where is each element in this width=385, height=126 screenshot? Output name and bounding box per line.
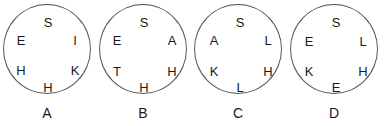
letter-upper-left: E	[14, 34, 28, 47]
letter-lower-right: K	[68, 64, 82, 77]
letter-bottom: H	[41, 81, 55, 94]
option-label: C	[233, 106, 243, 120]
letter-bottom: L	[233, 81, 247, 94]
letter-lower-left: K	[207, 65, 221, 78]
letter-top: S	[41, 16, 55, 29]
option-label: D	[329, 106, 339, 120]
option-label: A	[42, 106, 51, 120]
letter-top: S	[233, 16, 247, 29]
option-d: S E L K H E D	[287, 0, 382, 126]
letter-upper-left: E	[110, 34, 124, 47]
letter-lower-left: H	[14, 64, 28, 77]
option-b: S E A T H H B	[96, 0, 191, 126]
letter-upper-right: I	[68, 34, 82, 47]
option-a: S E I H K H A	[0, 0, 95, 126]
letter-upper-left: E	[302, 35, 316, 48]
letter-lower-right: H	[356, 65, 370, 78]
letter-lower-right: H	[165, 65, 179, 78]
letter-bottom: H	[137, 81, 151, 94]
letter-bottom: E	[329, 81, 343, 94]
letter-upper-right: L	[356, 35, 370, 48]
option-c: S A L K H L C	[191, 0, 286, 126]
letter-top: S	[329, 16, 343, 29]
letter-upper-right: A	[165, 34, 179, 47]
letter-lower-right: H	[261, 65, 275, 78]
letter-lower-left: T	[110, 65, 124, 78]
letter-top: S	[137, 16, 151, 29]
letter-lower-left: K	[302, 65, 316, 78]
letter-upper-right: L	[261, 34, 275, 47]
option-label: B	[138, 106, 147, 120]
letter-upper-left: A	[207, 34, 221, 47]
